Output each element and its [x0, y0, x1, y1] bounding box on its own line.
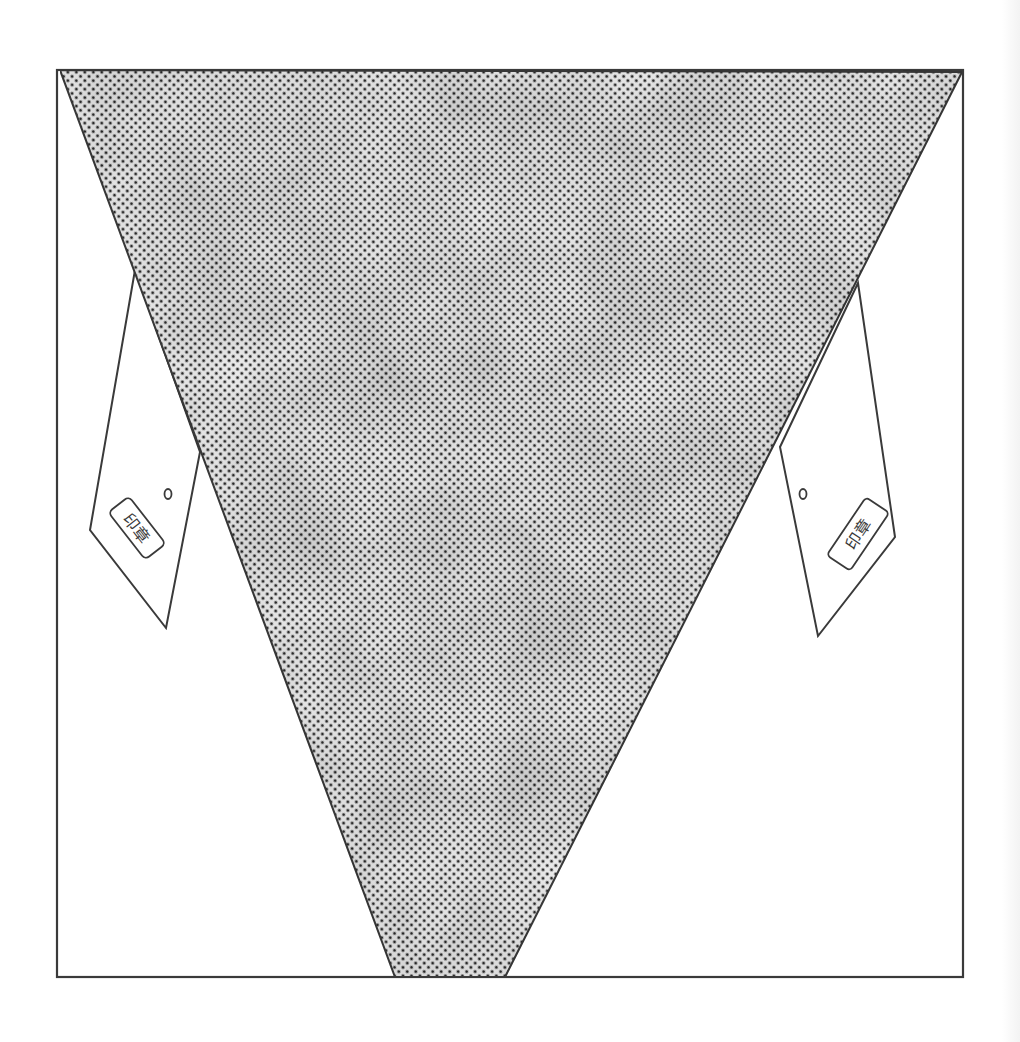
figure-canvas: 印章 印章 [0, 0, 1020, 1042]
diagram-svg: 印章 印章 [0, 0, 1020, 1042]
page-edge-shadow [1002, 0, 1020, 1042]
